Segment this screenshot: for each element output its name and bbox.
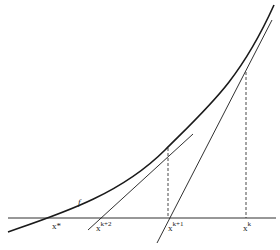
label-x-k2-base: x	[96, 223, 101, 233]
label-x-k1-sup: k+1	[173, 220, 184, 228]
newton-method-diagram	[0, 0, 280, 250]
label-x-k-base: x	[243, 223, 248, 233]
label-x-k2-sup: k+2	[101, 220, 112, 228]
label-x-k-sup: k	[248, 220, 252, 228]
label-x-star: x*	[52, 222, 61, 231]
tangent-at-xk	[157, 20, 272, 243]
label-x-k2: xk+2	[96, 222, 111, 233]
label-x-k1: xk+1	[168, 222, 183, 233]
tangent-at-xk1	[88, 134, 193, 230]
curve-f	[8, 5, 274, 232]
label-x-k1-base: x	[168, 223, 173, 233]
curve-label-f: f	[78, 198, 81, 207]
label-x-k: xk	[243, 222, 251, 233]
